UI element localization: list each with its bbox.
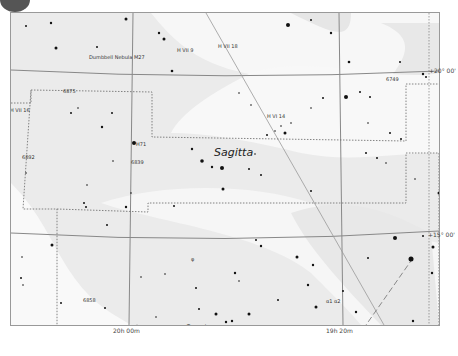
- object-label: 6875: [63, 88, 76, 94]
- object-label: H71: [136, 141, 146, 147]
- top-circle-marker: [0, 0, 30, 12]
- object-label: 6749: [386, 76, 399, 82]
- object-label: 6839: [131, 159, 144, 165]
- constellation-label: Sagitta: [214, 146, 253, 159]
- object-label: H VII 16: [10, 107, 30, 113]
- object-label: Dumbbell Nebula M27: [89, 54, 145, 60]
- star-chart[interactable]: Dumbbell Nebula M27H VII 9H VII 186875H …: [10, 12, 440, 326]
- dec-label-20: +20° 00': [429, 67, 456, 74]
- chart-canvas: [11, 13, 439, 325]
- object-label: Tarazed: [187, 323, 206, 326]
- object-label: H VII 9: [177, 47, 194, 53]
- object-label: H VII 18: [218, 43, 238, 49]
- object-label: H VI 14: [267, 113, 285, 119]
- object-label: φ: [191, 256, 194, 262]
- object-label: 6858: [83, 297, 96, 303]
- object-label: 6892: [22, 154, 35, 160]
- dec-label-15: +15° 00': [428, 231, 455, 238]
- constellation-boundary: [11, 90, 31, 103]
- ra-label-20h00: 20h 00m: [113, 327, 140, 334]
- ra-label-19h20: 19h 20m: [326, 327, 353, 334]
- object-label: α1 α2: [326, 298, 341, 304]
- milky-way-region: [171, 66, 439, 157]
